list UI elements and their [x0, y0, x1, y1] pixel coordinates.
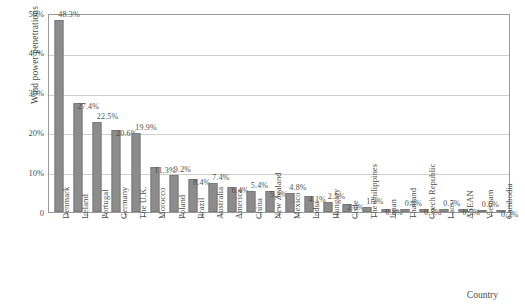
bar-slot: 9.2% — [165, 15, 184, 212]
x-axis-category-label: Mexico — [292, 192, 302, 219]
x-axis-category-label: Poland — [177, 195, 187, 219]
bar-slot: 6.4% — [222, 15, 241, 212]
bar-slot: 27.4% — [68, 15, 87, 212]
y-axis-tick-label: 20% — [14, 129, 44, 138]
x-axis-category-label: Ireland — [80, 194, 90, 219]
bar-slot: 11.3% — [145, 15, 164, 212]
x-axis-category-label: Portugal — [100, 189, 110, 219]
x-axis: Country DenmarkIrelandPortugalGermanyThe… — [48, 213, 510, 308]
bar-slot: 22.5% — [88, 15, 107, 212]
y-axis-tick-label: 30% — [14, 89, 44, 98]
bar-slot: 8.4% — [184, 15, 203, 212]
x-axis-category-label: India — [311, 201, 321, 219]
x-axis-category-label: Chile — [350, 200, 360, 219]
bar-slot: 5.4% — [242, 15, 261, 212]
wind-power-penetration-bar-chart: Wind power penetrations 010%20%30%40%50%… — [0, 0, 525, 308]
y-axis-tick-label: 0 — [14, 209, 44, 218]
bar[interactable] — [54, 20, 63, 212]
bar-slot: 2.0% — [338, 15, 357, 212]
x-axis-category-label: New Zealand — [273, 172, 283, 219]
x-axis-category-label: Morocco — [157, 188, 167, 219]
x-axis-title: Country — [467, 290, 498, 300]
bar-slot: 48.3% — [49, 15, 68, 212]
bar-slot: 2.5% — [319, 15, 338, 212]
bar-slot: 0.6% — [473, 15, 492, 212]
bar-slot: 0.7% — [453, 15, 472, 212]
x-axis-category-label: Thailand — [408, 188, 418, 219]
bar-slot: 4.1% — [299, 15, 318, 212]
x-axis-category-label: Vietnam — [485, 190, 495, 219]
x-axis-category-label: Cambodia — [504, 183, 514, 219]
x-axis-category-label: Laos — [446, 202, 456, 219]
x-axis-category-label: Denmark — [61, 187, 71, 219]
x-axis-category-label: Hungary — [331, 189, 341, 219]
x-axis-category-label: Japan — [388, 199, 398, 219]
x-axis-category-label: ASEAN — [465, 190, 475, 219]
bar-slot: 19.9% — [126, 15, 145, 212]
x-axis-category-label: America — [234, 189, 244, 219]
bar-slot: 0.8% — [396, 15, 415, 212]
x-axis-category-label: Czech Republic — [427, 164, 437, 219]
x-axis-category-label: China — [254, 198, 264, 219]
bar-slot: 0.8% — [376, 15, 395, 212]
bar-slot: 20.6% — [107, 15, 126, 212]
y-axis-tick-label: 50% — [14, 10, 44, 19]
x-axis-category-label: Germany — [119, 187, 129, 219]
x-axis-category-label: Brazil — [196, 198, 206, 219]
x-axis-category-label: Australia — [215, 187, 225, 219]
y-axis-tick-label: 10% — [14, 169, 44, 178]
x-axis-category-label: The Philippines — [369, 164, 379, 219]
x-axis-category-label: The U.K. — [138, 186, 148, 219]
bar-slot: 7.4% — [203, 15, 222, 212]
y-axis-tick-label: 40% — [14, 49, 44, 58]
